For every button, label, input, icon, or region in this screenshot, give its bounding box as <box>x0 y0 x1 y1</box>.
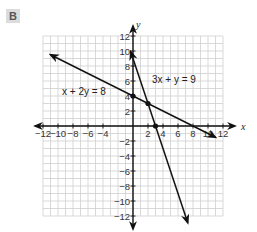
x-tick-label: 12 <box>218 128 229 139</box>
x-tick-label: −10 <box>50 128 66 139</box>
equation-label-2: 3x + y = 9 <box>152 74 196 85</box>
x-tick-label: −12 <box>35 128 51 139</box>
x-tick-label: 6 <box>175 128 180 139</box>
x-tick-label: 4 <box>160 128 165 139</box>
y-tick-label: 6 <box>125 76 130 87</box>
y-tick-label: −6 <box>119 166 130 177</box>
x-tick-label: −4 <box>98 128 109 139</box>
y-tick-label: −4 <box>119 151 130 162</box>
y-axis-label: y <box>135 19 141 30</box>
x-axis-label: x <box>240 121 246 132</box>
y-tick-label: −10 <box>114 196 130 207</box>
equation-label-1: x + 2y = 8 <box>62 86 106 97</box>
y-tick-label: 8 <box>125 61 130 72</box>
y-tick-label: −2 <box>119 136 130 147</box>
y-tick-label: 2 <box>125 106 130 117</box>
y-tick-label: 10 <box>119 46 130 57</box>
intersection-point <box>145 101 150 106</box>
x-tick-label: 2 <box>145 128 150 139</box>
x-tick-label: −8 <box>68 128 79 139</box>
y-tick-label: −12 <box>114 211 130 222</box>
x-tick-label: −6 <box>83 128 94 139</box>
coordinate-plane: xy −12−10−8−6−42468101212108642−2−4−6−8−… <box>0 0 257 232</box>
intersection-point <box>153 123 158 128</box>
intersection-point <box>130 93 135 98</box>
y-tick-label: −8 <box>119 181 130 192</box>
y-tick-label: 12 <box>119 31 130 42</box>
x-tick-label: 8 <box>190 128 195 139</box>
